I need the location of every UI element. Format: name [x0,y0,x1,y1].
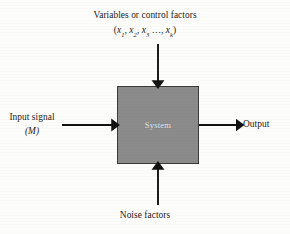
variable-x2-subscript: 2 [134,31,137,38]
noise-factors-title: Noise factors [120,210,170,220]
control-factors-title: Variables or control factors [0,10,290,22]
variable-x2: x [129,25,133,35]
variable-x3-subscript: 3 [146,31,149,38]
variable-x1-subscript: 1 [121,31,124,38]
variable-xk-subscript: k [170,31,173,38]
system-box: System [117,86,199,164]
noise-factors-label: Noise factors [0,210,290,222]
input-signal-title: Input signal [4,112,60,124]
control-factors-variable-list: (x1, x2, x3 …, xk) [0,25,290,37]
output-label: Output [243,119,289,131]
system-box-label: System [145,120,172,130]
variable-ellipsis: …, [149,25,166,35]
system-block-diagram: Variables or control factors (x1, x2, x3… [0,0,290,234]
output-title: Output [243,119,269,129]
input-signal-symbol: (M) [4,126,60,138]
paren-close: ) [173,25,176,35]
input-signal-label: Input signal (M) [4,112,60,138]
top-input-label: Variables or control factors (x1, x2, x3… [0,10,290,37]
